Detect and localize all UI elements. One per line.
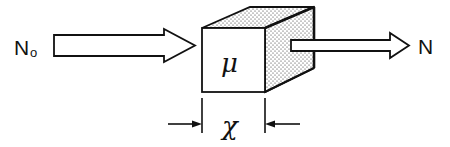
- transmitted-label: N: [418, 35, 433, 58]
- dimension-arrow-right-icon: [265, 121, 300, 128]
- incident-label-subscript: o: [30, 45, 37, 60]
- material-label: μ: [221, 48, 238, 78]
- incident-label-main: N: [14, 36, 29, 59]
- dimension-arrow-left-icon: [168, 121, 202, 128]
- attenuation-diagram: N o μ N χ: [0, 0, 450, 147]
- incident-beam-label: N o: [14, 36, 37, 60]
- thickness-dimension: χ: [168, 98, 300, 141]
- thickness-label: χ: [220, 111, 240, 141]
- incident-beam-arrow: [54, 29, 195, 62]
